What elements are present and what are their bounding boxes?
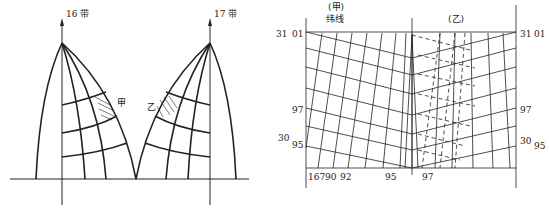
right-label-31: 31 [520,29,531,39]
left-label-30: 30 [278,133,290,143]
left-figure [10,18,249,205]
left-label-97: 97 [292,105,304,115]
right-label-30: 30 [520,136,532,146]
right-figure [306,5,516,188]
bottom-label-92: 92 [340,172,351,182]
left-label-01: 01 [292,29,303,39]
header-a-line1: (甲) [328,2,344,12]
right-label-01: 01 [534,29,545,39]
right-label-95: 95 [534,141,546,151]
bottom-label-167: 167 [308,172,325,182]
bottom-label-95: 95 [385,172,397,182]
bottom-label-97: 97 [422,172,434,182]
right-label-97: 97 [520,105,532,115]
left-label-31: 31 [276,29,287,39]
region-a-label: 甲 [117,98,126,108]
left-label-95: 95 [292,140,304,150]
region-b-label: 乙 [147,102,156,112]
projection-diagram: 16 带 17 带 甲 乙 [0,0,549,220]
header-b: (乙) [448,14,464,24]
zone-16-label: 16 带 [66,9,89,19]
header-a-line2: 纬线 [326,13,344,24]
zone-17-label: 17 带 [214,9,237,19]
bottom-label-90: 90 [325,172,337,182]
